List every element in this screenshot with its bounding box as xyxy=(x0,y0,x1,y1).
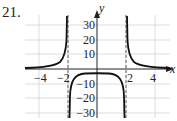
svg-text:2: 2 xyxy=(127,71,133,85)
svg-text:−10: −10 xyxy=(76,77,95,91)
svg-text:−20: −20 xyxy=(76,91,95,105)
svg-text:−4: −4 xyxy=(34,71,47,85)
svg-text:−30: −30 xyxy=(76,106,95,120)
svg-text:20: 20 xyxy=(83,33,95,47)
svg-text:30: 30 xyxy=(83,18,95,32)
y-axis-label: y xyxy=(98,1,105,15)
x-axis-label: x xyxy=(169,62,176,76)
function-graph: x y −4 −2 2 4 30 20 10 −10 −20 −30 xyxy=(0,0,177,121)
svg-text:4: 4 xyxy=(150,71,156,85)
svg-text:−2: −2 xyxy=(57,71,70,85)
svg-text:10: 10 xyxy=(83,47,95,61)
